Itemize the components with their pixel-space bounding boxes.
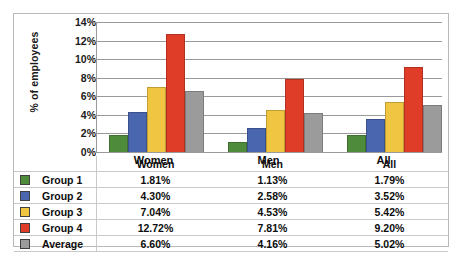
legend-swatch-cell	[14, 220, 36, 236]
legend-color-swatch	[20, 207, 30, 217]
legend-swatch-cell	[14, 172, 36, 188]
legend-swatch-cell	[14, 236, 36, 252]
legend-series-label: Group 2	[36, 188, 97, 204]
table-cell-value: 9.20%	[331, 220, 448, 236]
table-row: Group 412.72%7.81%9.20%	[14, 220, 448, 236]
bar[interactable]	[366, 119, 385, 152]
bar[interactable]	[166, 34, 185, 152]
legend-color-swatch	[20, 239, 30, 249]
legend-color-swatch	[20, 175, 30, 185]
table-header-blank	[36, 156, 97, 172]
legend-series-label: Group 3	[36, 204, 97, 220]
table-cell-value: 4.16%	[214, 236, 331, 252]
table-row: Group 37.04%4.53%5.42%	[14, 204, 448, 220]
bar[interactable]	[128, 112, 147, 152]
y-tick-label: 10%	[58, 53, 96, 65]
bar[interactable]	[228, 142, 247, 152]
bar[interactable]	[266, 110, 285, 152]
data-table: WomenMenAllGroup 11.81%1.13%1.79%Group 2…	[14, 156, 448, 252]
bar-group	[97, 22, 216, 152]
legend-series-label: Average	[36, 236, 97, 252]
bar-groups	[97, 22, 442, 152]
table-column-header: Men	[214, 156, 331, 172]
table-cell-value: 2.58%	[214, 188, 331, 204]
y-tick-label: 12%	[58, 35, 96, 47]
bar[interactable]	[347, 135, 366, 152]
bar[interactable]	[304, 113, 323, 152]
y-axis-tick-labels: 0%2%4%6%8%10%12%14%	[58, 22, 96, 152]
y-tick-label: 2%	[58, 127, 96, 139]
bar[interactable]	[404, 67, 423, 152]
table-cell-value: 5.42%	[331, 204, 448, 220]
table-column-header: Women	[97, 156, 215, 172]
table-cell-value: 7.04%	[97, 204, 215, 220]
y-tick-label: 8%	[58, 72, 96, 84]
bar[interactable]	[247, 128, 266, 152]
y-axis-tickmark	[93, 152, 97, 153]
table-row: Average6.60%4.16%5.02%	[14, 236, 448, 252]
table-header-blank	[14, 156, 36, 172]
table-column-header: All	[331, 156, 448, 172]
bar-group	[216, 22, 335, 152]
y-tick-label: 6%	[58, 90, 96, 102]
chart-frame: % of employees 0%2%4%6%8%10%12%14% Women…	[13, 13, 449, 247]
table-row: Group 11.81%1.13%1.79%	[14, 172, 448, 188]
bar[interactable]	[147, 87, 166, 152]
legend-color-swatch	[20, 191, 30, 201]
y-tick-label: 4%	[58, 109, 96, 121]
table-cell-value: 1.79%	[331, 172, 448, 188]
table-cell-value: 4.30%	[97, 188, 215, 204]
y-axis-title: % of employees	[28, 22, 40, 122]
table-row: Group 24.30%2.58%3.52%	[14, 188, 448, 204]
legend-swatch-cell	[14, 188, 36, 204]
bar[interactable]	[109, 135, 128, 152]
y-tick-label: 14%	[58, 16, 96, 28]
table-header-row: WomenMenAll	[14, 156, 448, 172]
table-cell-value: 3.52%	[331, 188, 448, 204]
legend-series-label: Group 1	[36, 172, 97, 188]
legend-swatch-cell	[14, 204, 36, 220]
bar[interactable]	[423, 105, 442, 152]
table-cell-value: 5.02%	[331, 236, 448, 252]
legend-color-swatch	[20, 223, 30, 233]
table-cell-value: 12.72%	[97, 220, 215, 236]
table-cell-value: 1.81%	[97, 172, 215, 188]
table-cell-value: 6.60%	[97, 236, 215, 252]
bar[interactable]	[285, 79, 304, 152]
legend-series-label: Group 4	[36, 220, 97, 236]
bar[interactable]	[385, 102, 404, 152]
table-cell-value: 1.13%	[214, 172, 331, 188]
table-cell-value: 7.81%	[214, 220, 331, 236]
plot-area	[96, 22, 442, 153]
table-cell-value: 4.53%	[214, 204, 331, 220]
bar[interactable]	[185, 91, 204, 152]
chart-plot-container: % of employees 0%2%4%6%8%10%12%14% Women…	[14, 14, 448, 160]
bar-group	[335, 22, 454, 152]
